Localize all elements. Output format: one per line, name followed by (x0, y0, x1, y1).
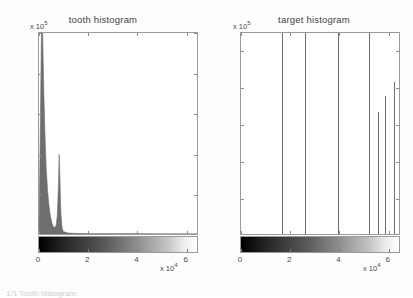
tooth-histogram-curve (39, 33, 197, 234)
panel-title-target: target histogram (225, 14, 403, 25)
x-tick-label: 4 (134, 255, 138, 264)
colorbar-tick (339, 249, 340, 252)
x-tick-mark (241, 231, 242, 234)
x-tick-mark (339, 33, 340, 36)
grayscale-colorbar-tooth (38, 236, 198, 253)
y-tick-mark (396, 88, 399, 89)
x-tick-mark (187, 231, 188, 234)
x-tick-mark (290, 33, 291, 36)
x-tick-label: 4 (336, 255, 340, 264)
x-tick-mark (88, 33, 89, 36)
x-tick-mark (137, 33, 138, 36)
y-tick-mark (194, 33, 197, 34)
y-tick-mark (39, 114, 42, 115)
y-tick-mark (194, 74, 197, 75)
x-tick-label: 6 (183, 255, 187, 264)
histogram-impulse (394, 82, 395, 234)
y-tick-mark (241, 88, 244, 89)
y-tick-mark (39, 74, 42, 75)
grayscale-colorbar-target (240, 236, 400, 253)
y-tick-mark (194, 195, 197, 196)
x-tick-mark (389, 231, 390, 234)
x-tick-label: 2 (85, 255, 89, 264)
x-tick-mark (39, 33, 40, 36)
y-tick-mark (396, 199, 399, 200)
plot-area-target (241, 33, 399, 234)
y-tick-mark (194, 114, 197, 115)
y-tick-mark (241, 51, 244, 52)
y-tick-mark (241, 125, 244, 126)
panel-tooth-histogram: tooth histogram x 105 00.511.522.5 x 104… (0, 0, 206, 296)
y-tick-mark (39, 195, 42, 196)
x-tick-mark (187, 33, 188, 36)
plot-axes-tooth: 00.511.522.5 (38, 32, 198, 235)
y-axis-multiplier-tooth: x 105 (30, 20, 48, 31)
histogram-impulse (369, 32, 370, 234)
histogram-impulse (338, 32, 339, 234)
colorbar-tick (39, 249, 40, 252)
histogram-impulse (385, 96, 386, 234)
x-tick-mark (389, 33, 390, 36)
x-tick-mark (137, 231, 138, 234)
x-axis-multiplier-target: x 104 (363, 262, 381, 273)
y-tick-mark (39, 155, 42, 156)
x-tick-label: 2 (287, 255, 291, 264)
colorbar-tick (241, 249, 242, 252)
x-tick-label: 6 (385, 255, 389, 264)
colorbar-tick (187, 249, 188, 252)
histogram-impulse (282, 32, 283, 234)
x-tick-mark (88, 231, 89, 234)
panel-target-histogram: target histogram x 105 00.511.522.5 x 10… (203, 0, 409, 296)
x-tick-label: 0 (238, 255, 242, 264)
y-tick-mark (396, 125, 399, 126)
figure-caption-clipped: 1/1 Tooth histogram (6, 289, 76, 298)
y-tick-mark (241, 199, 244, 200)
y-tick-mark (396, 51, 399, 52)
histogram-impulse (305, 32, 306, 234)
x-tick-mark (39, 231, 40, 234)
colorbar-tick (389, 249, 390, 252)
y-axis-multiplier-target: x 105 (233, 20, 251, 31)
plot-axes-target: 00.511.522.5 (240, 32, 400, 235)
x-axis-multiplier-tooth: x 104 (160, 262, 178, 273)
colorbar-tick (290, 249, 291, 252)
x-tick-label: 0 (36, 255, 40, 264)
colorbar-tick (137, 249, 138, 252)
colorbar-tick (88, 249, 89, 252)
x-tick-mark (241, 33, 242, 36)
y-tick-mark (241, 162, 244, 163)
x-tick-mark (339, 231, 340, 234)
x-tick-mark (290, 231, 291, 234)
plot-area-tooth (39, 33, 197, 234)
y-tick-mark (194, 155, 197, 156)
histogram-impulse (378, 112, 379, 234)
y-tick-mark (396, 162, 399, 163)
